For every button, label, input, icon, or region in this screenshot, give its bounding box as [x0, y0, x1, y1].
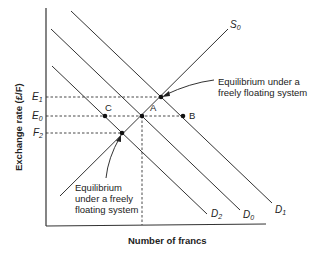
annotation-arrow-top	[165, 80, 214, 95]
point-c	[103, 114, 108, 119]
x-axis-title: Number of francs	[128, 235, 207, 246]
annotation-bottom-line3: floating system	[75, 204, 138, 215]
curve-label-d2: D2	[211, 208, 222, 220]
demand-curve-d1	[71, 11, 272, 203]
curve-label-s0: S0	[230, 19, 241, 31]
annotation-top-line2: freely floating system	[218, 87, 307, 98]
point-b-label: B	[189, 110, 195, 121]
arrowhead-bottom-icon	[116, 135, 121, 142]
supply-curve-s0	[60, 29, 228, 196]
curve-label-d0: D0	[243, 209, 254, 221]
tick-label-f2: F2	[33, 127, 43, 139]
annotation-bottom-line1: Equilibrium	[75, 182, 122, 193]
annotation-top-line1: Equilibrium under a	[218, 76, 301, 87]
curve-label-d1: D1	[275, 204, 286, 216]
point-a	[140, 114, 145, 119]
y-axis-title: Exchange rate (£/F)	[13, 83, 24, 171]
equilibrium-point-f2	[120, 131, 125, 136]
exchange-rate-diagram: A B C E1 E0 F2 S0 D1 D0 D2 Equilibrium u…	[0, 0, 326, 253]
point-a-label: A	[150, 102, 157, 113]
point-b	[181, 114, 186, 119]
annotation-bottom-line2: under a freely	[75, 193, 133, 204]
x-axis	[46, 224, 266, 226]
tick-label-e0: E0	[32, 110, 43, 122]
tick-label-e1: E1	[32, 91, 43, 103]
point-c-label: C	[105, 102, 112, 113]
equilibrium-point-e1	[159, 95, 164, 100]
